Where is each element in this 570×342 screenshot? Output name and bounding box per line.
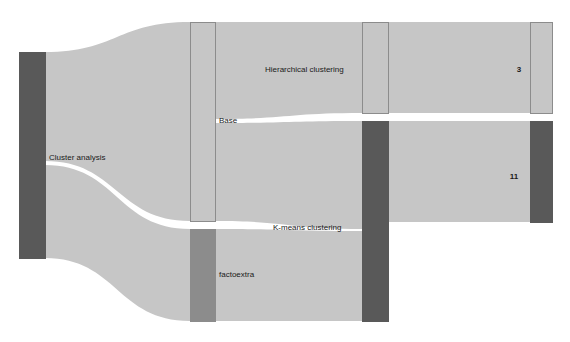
- sankey-node-label-factoextra: factoextra: [219, 270, 255, 279]
- sankey-node-label-hierarchical-clustering: Hierarchical clustering: [265, 65, 344, 74]
- sankey-node-label-out-3: 3: [517, 65, 522, 74]
- sankey-node-label-k-means-clustering: K-means clustering: [273, 223, 341, 232]
- sankey-link[interactable]: [388, 121, 530, 222]
- sankey-node-hierarchical-clustering[interactable]: [362, 22, 388, 113]
- sankey-node-out-3[interactable]: [530, 22, 552, 113]
- sankey-node-out-11[interactable]: [530, 121, 552, 222]
- sankey-link[interactable]: [215, 121, 362, 229]
- sankey-node-k-means-clustering[interactable]: [362, 121, 388, 321]
- sankey-diagram: Cluster analysisBasefactoextraHierarchic…: [0, 0, 570, 342]
- sankey-canvas: Cluster analysisBasefactoextraHierarchic…: [0, 0, 570, 342]
- sankey-node-label-cluster-analysis: Cluster analysis: [49, 153, 105, 162]
- sankey-node-label-base: Base: [219, 116, 238, 125]
- sankey-link[interactable]: [388, 22, 530, 113]
- sankey-node-factoextra[interactable]: [190, 229, 215, 321]
- sankey-node-cluster-analysis[interactable]: [19, 52, 45, 258]
- sankey-node-base[interactable]: [190, 22, 215, 221]
- sankey-node-label-out-11: 11: [510, 172, 519, 181]
